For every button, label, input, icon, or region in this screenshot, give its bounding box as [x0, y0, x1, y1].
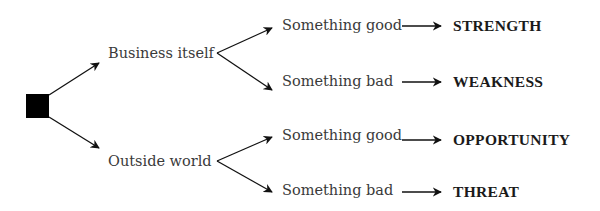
- result-weakness: WEAKNESS: [453, 73, 543, 91]
- result-opportunity: OPPORTUNITY: [453, 131, 570, 149]
- node-business-something-good: Something good: [282, 16, 402, 34]
- node-outside-something-good: Something good: [282, 126, 402, 144]
- arrow-to-outside-world: [49, 117, 99, 148]
- root-node-square: [26, 94, 49, 118]
- node-outside-something-bad: Something bad: [282, 181, 393, 199]
- arrow-to-business-itself: [49, 63, 99, 95]
- node-business-itself: Business itself: [108, 44, 214, 62]
- result-threat: THREAT: [453, 183, 519, 201]
- node-outside-world: Outside world: [108, 152, 212, 170]
- result-strength: STRENGTH: [453, 17, 542, 35]
- node-business-something-bad: Something bad: [282, 72, 393, 90]
